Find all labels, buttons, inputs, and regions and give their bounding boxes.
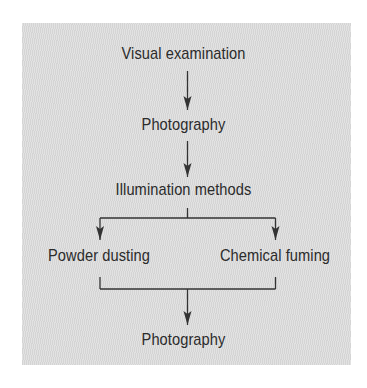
node-powder-dusting: Powder dusting (45, 246, 153, 266)
node-visual-examination: Visual examination (26, 44, 342, 64)
node-photography-1: Photography (26, 115, 342, 135)
node-illumination-methods: Illumination methods (26, 180, 342, 200)
node-photography-2: Photography (26, 330, 342, 350)
node-chemical-fuming: Chemical fuming (217, 246, 332, 266)
